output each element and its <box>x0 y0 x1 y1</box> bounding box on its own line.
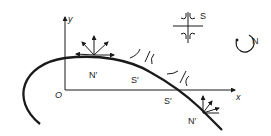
node-arrows-bottom <box>203 96 219 113</box>
label-n-prime-bottom: N′ <box>188 116 196 126</box>
phase-diagram: y x O N′ S′ S′ N′ S N <box>0 0 271 136</box>
legend-saddle-label: S <box>200 11 206 21</box>
label-s-prime-axis: S′ <box>164 96 172 106</box>
label-n-prime-top: N′ <box>89 70 97 80</box>
x-axis-label: x <box>235 92 241 102</box>
label-s-prime-mid: S′ <box>131 75 139 85</box>
saddle-icon <box>173 12 203 43</box>
legend-node-label: N <box>252 36 259 46</box>
origin-label: O <box>55 90 62 100</box>
y-axis-label: y <box>67 14 73 24</box>
node-arrows-top <box>76 36 114 55</box>
